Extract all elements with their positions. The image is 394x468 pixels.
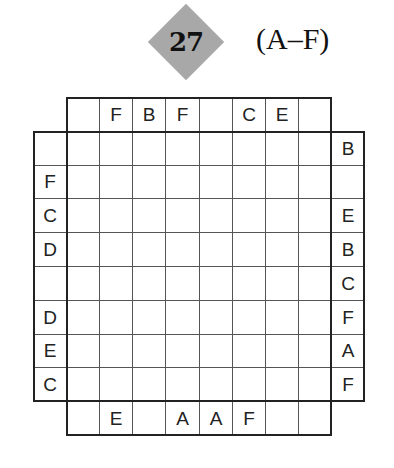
grid-cell[interactable] — [165, 300, 200, 335]
grid-cell[interactable] — [232, 334, 266, 368]
right-clue-cell — [331, 165, 365, 199]
grid-cell[interactable] — [66, 334, 100, 368]
letter-range: (A–F) — [256, 22, 329, 56]
grid-cell[interactable] — [199, 334, 233, 368]
top-clue-cell — [199, 97, 233, 132]
right-clue-cell: A — [331, 334, 365, 368]
top-clue-cell — [298, 97, 332, 132]
grid-cell[interactable] — [199, 266, 233, 301]
grid-cell[interactable] — [265, 165, 299, 199]
right-clue-cell: B — [331, 131, 365, 166]
grid-cell[interactable] — [132, 131, 166, 166]
top-clue-cell: F — [165, 97, 200, 132]
grid-cell[interactable] — [165, 165, 200, 199]
grid-cell[interactable] — [132, 165, 166, 199]
grid-cell[interactable] — [199, 367, 233, 402]
grid-cell[interactable] — [265, 232, 299, 267]
right-clue-cell: F — [331, 300, 365, 335]
grid-cell[interactable] — [199, 165, 233, 199]
bottom-clue-cell — [265, 401, 299, 436]
puzzle-number-badge: 27 — [148, 4, 224, 80]
right-clue-cell: B — [331, 232, 365, 267]
grid-cell[interactable] — [232, 367, 266, 402]
grid-cell[interactable] — [298, 165, 332, 199]
grid-cell[interactable] — [66, 367, 100, 402]
top-clue-cell: C — [232, 97, 266, 132]
left-clue-cell: D — [33, 232, 67, 267]
grid-cell[interactable] — [99, 165, 133, 199]
grid-cell[interactable] — [232, 131, 266, 166]
right-clue-cell: F — [331, 367, 365, 402]
grid-cell[interactable] — [165, 266, 200, 301]
left-clue-cell — [33, 266, 67, 301]
grid-cell[interactable] — [99, 266, 133, 301]
left-clue-cell — [33, 131, 67, 166]
bottom-clue-cell — [298, 401, 332, 436]
bottom-clue-cell: A — [165, 401, 200, 436]
grid-cell[interactable] — [298, 198, 332, 233]
grid-cell[interactable] — [265, 266, 299, 301]
grid-cell[interactable] — [265, 198, 299, 233]
grid-cell[interactable] — [265, 334, 299, 368]
grid-cell[interactable] — [99, 131, 133, 166]
grid-cell[interactable] — [132, 198, 166, 233]
grid-cell[interactable] — [99, 300, 133, 335]
left-clue-cell: C — [33, 198, 67, 233]
grid-cell[interactable] — [132, 300, 166, 335]
top-clue-cell: E — [265, 97, 299, 132]
bottom-clue-cell: A — [199, 401, 233, 436]
grid-cell[interactable] — [265, 131, 299, 166]
grid-cell[interactable] — [265, 300, 299, 335]
grid-cell[interactable] — [66, 300, 100, 335]
grid-cell[interactable] — [232, 198, 266, 233]
grid-cell[interactable] — [99, 334, 133, 368]
right-clue-cell: E — [331, 198, 365, 233]
grid-cell[interactable] — [165, 232, 200, 267]
grid-cell[interactable] — [298, 334, 332, 368]
grid-cell[interactable] — [232, 266, 266, 301]
grid-cell[interactable] — [298, 266, 332, 301]
bottom-clue-cell: F — [232, 401, 266, 436]
grid-cell[interactable] — [298, 131, 332, 166]
grid-cell[interactable] — [99, 198, 133, 233]
grid-cell[interactable] — [199, 300, 233, 335]
grid-cell[interactable] — [132, 232, 166, 267]
left-clue-cell: F — [33, 165, 67, 199]
grid-cell[interactable] — [132, 334, 166, 368]
left-clue-cell: C — [33, 367, 67, 402]
grid-cell[interactable] — [199, 198, 233, 233]
right-clue-cell: C — [331, 266, 365, 301]
grid-cell[interactable] — [165, 367, 200, 402]
top-clue-cell — [66, 97, 100, 132]
grid-cell[interactable] — [199, 232, 233, 267]
grid-cell[interactable] — [66, 165, 100, 199]
grid-cell[interactable] — [165, 198, 200, 233]
grid-cell[interactable] — [66, 131, 100, 166]
bottom-clue-cell — [66, 401, 100, 436]
grid-cell[interactable] — [298, 367, 332, 402]
grid-cell[interactable] — [99, 367, 133, 402]
grid-cell[interactable] — [66, 266, 100, 301]
bottom-clue-cell: E — [99, 401, 133, 436]
grid-cell[interactable] — [99, 232, 133, 267]
left-clue-cell: E — [33, 334, 67, 368]
top-clue-cell: B — [132, 97, 166, 132]
grid-cell[interactable] — [66, 198, 100, 233]
grid-cell[interactable] — [165, 334, 200, 368]
grid-cell[interactable] — [232, 165, 266, 199]
grid-cell[interactable] — [232, 232, 266, 267]
grid-cell[interactable] — [232, 300, 266, 335]
grid-cell[interactable] — [199, 131, 233, 166]
grid-cell[interactable] — [66, 232, 100, 267]
top-clue-cell: F — [99, 97, 133, 132]
grid-cell[interactable] — [165, 131, 200, 166]
puzzle-number: 27 — [148, 4, 224, 80]
grid-cell[interactable] — [132, 266, 166, 301]
left-clue-cell: D — [33, 300, 67, 335]
grid-cell[interactable] — [132, 367, 166, 402]
grid-cell[interactable] — [298, 300, 332, 335]
bottom-clue-cell — [132, 401, 166, 436]
grid-cell[interactable] — [265, 367, 299, 402]
grid-cell[interactable] — [298, 232, 332, 267]
